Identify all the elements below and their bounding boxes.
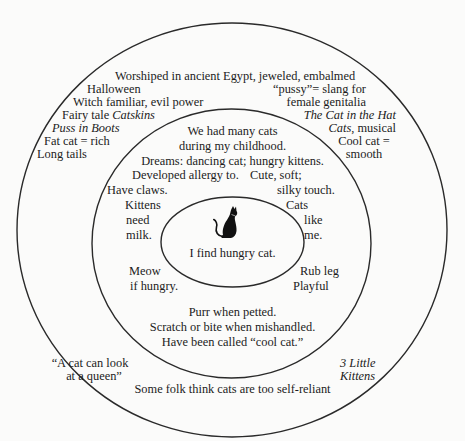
inner-label: I find hungry cat.: [172, 246, 293, 261]
musical-suffix: , musical: [351, 121, 396, 135]
middle-cute-1: Cute, soft;: [250, 168, 302, 183]
middle-rub-leg: Rub leg: [300, 264, 339, 279]
outer-cool-cat-2: smooth: [330, 147, 398, 162]
middle-meow-2: if hungry.: [130, 279, 178, 294]
middle-cats-like-1: Cats: [286, 198, 308, 213]
middle-allergy: Developed allergy to.: [132, 168, 239, 183]
middle-bottom-1: Purr when petted.: [130, 305, 335, 320]
outer-self-reliant: Some folk think cats are too self-relian…: [100, 382, 365, 397]
middle-cats-like-3: me.: [304, 228, 322, 243]
outer-long-tails: Long tails: [37, 147, 87, 162]
fairy-prefix: Fairy tale: [62, 108, 112, 122]
fairy-title: Catskins: [112, 108, 155, 122]
middle-cute-2: silky touch.: [277, 183, 335, 198]
middle-kittens-2: need: [126, 213, 149, 228]
middle-bottom-2: Scratch or bite when mishandled.: [130, 320, 335, 335]
middle-claws: Have claws.: [107, 183, 168, 198]
middle-kittens-3: milk.: [126, 228, 152, 243]
middle-top-1: We had many cats: [130, 124, 335, 139]
middle-top-3: Dreams: dancing cat; hungry kittens.: [130, 154, 335, 169]
middle-meow-1: Meow: [129, 264, 161, 279]
middle-bottom-3: Have been called “cool cat.”: [130, 335, 335, 350]
cat-silhouette-icon: [212, 205, 240, 239]
middle-kittens-1: Kittens: [125, 198, 161, 213]
middle-cats-like-2: like: [304, 213, 323, 228]
middle-playful: Playful: [293, 279, 329, 294]
middle-top-2: during my childhood.: [130, 139, 335, 154]
